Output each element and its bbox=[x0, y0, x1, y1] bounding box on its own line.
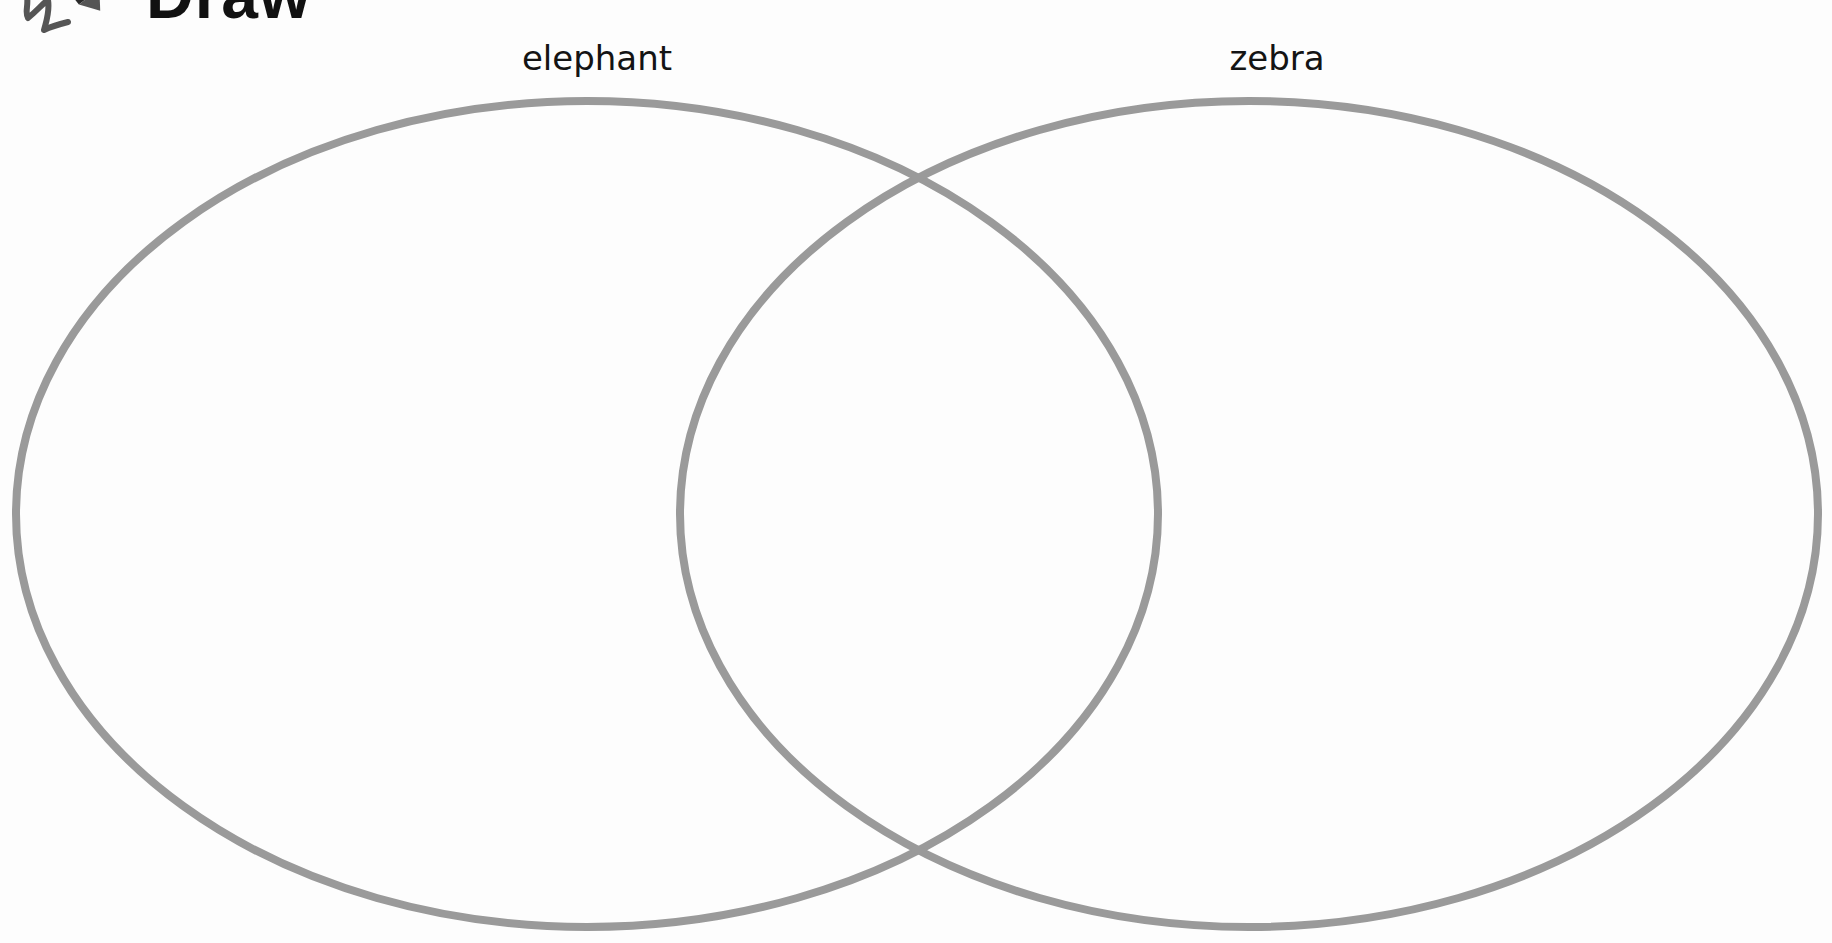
venn-diagram bbox=[0, 0, 1832, 943]
worksheet-page: Draw elephant zebra bbox=[0, 0, 1832, 943]
venn-circle-elephant bbox=[16, 101, 1158, 927]
venn-circle-zebra bbox=[680, 101, 1818, 927]
